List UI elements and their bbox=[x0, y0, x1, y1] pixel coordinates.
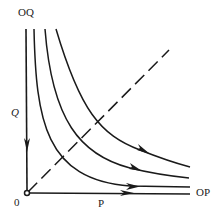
origin-label: 0 bbox=[14, 196, 20, 208]
trajectory-3-arrow-icon bbox=[137, 144, 150, 154]
q-axis bbox=[26, 29, 27, 190]
p-axis-label: P bbox=[98, 197, 104, 209]
origin-point bbox=[25, 191, 30, 196]
trajectory-3 bbox=[56, 29, 190, 167]
trajectory-2-arrow-icon bbox=[129, 163, 142, 171]
p-axis-end-label: OP bbox=[196, 186, 210, 198]
p-axis bbox=[30, 193, 190, 194]
q-axis-label: Q bbox=[11, 106, 19, 118]
phase-portrait bbox=[0, 0, 219, 219]
diagonal-dashed-line bbox=[28, 50, 169, 192]
q-axis-end-label: OQ bbox=[18, 6, 34, 18]
